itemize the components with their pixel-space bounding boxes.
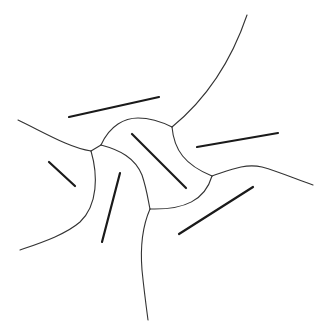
voronoi-diagram xyxy=(0,0,329,333)
